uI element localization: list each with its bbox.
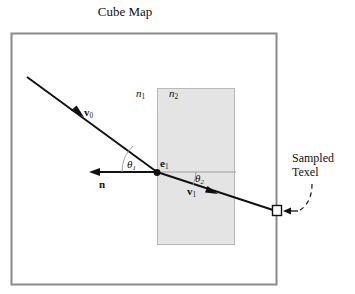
label-theta1-subscript: 1 <box>132 164 135 171</box>
label-v1-subscript: 1 <box>193 191 197 199</box>
label-n1-subscript: 1 <box>142 93 146 101</box>
label-v1: v1 <box>187 186 196 200</box>
label-e1-subscript: 1 <box>165 163 169 171</box>
label-v0: v0 <box>84 107 93 121</box>
label-e1: e1 <box>160 158 169 172</box>
label-theta1: θ1 <box>127 159 136 172</box>
label-theta2-subscript: 2 <box>200 178 203 185</box>
medium-slab <box>158 89 235 245</box>
normal-vector-arrowhead <box>89 168 100 176</box>
label-theta2: θ2 <box>195 173 204 186</box>
label-n1: n1 <box>136 88 145 102</box>
cube-map-frame <box>12 34 277 285</box>
label-normal-symbol: n <box>99 178 105 190</box>
texel-callout-arrowhead <box>283 208 291 215</box>
incident-ray-arrowhead <box>71 106 84 118</box>
label-n2-subscript: 2 <box>175 93 179 101</box>
label-normal-vector: n <box>99 179 105 190</box>
figure-title: Cube Map <box>0 5 250 18</box>
cube-map-refraction-diagram <box>0 0 355 294</box>
sampled-texel-square <box>273 206 282 216</box>
label-texel: Texel <box>292 166 318 178</box>
label-v0-subscript: 0 <box>90 112 94 120</box>
label-n2: n2 <box>169 88 178 102</box>
texel-callout-dashed-leader <box>300 184 312 210</box>
label-sampled: Sampled <box>292 152 334 164</box>
